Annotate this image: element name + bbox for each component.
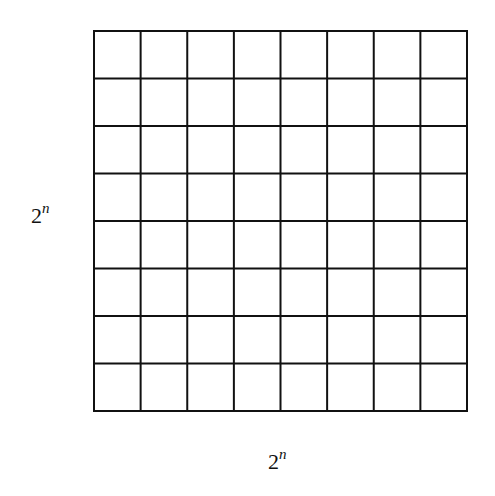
square-grid [93,30,468,412]
label-exponent: n [42,200,50,216]
label-base: 2 [268,449,279,474]
label-exponent: n [279,446,287,462]
side-length-label-left: 2n [31,202,50,229]
label-base: 2 [31,203,42,228]
side-length-label-bottom: 2n [268,448,287,475]
